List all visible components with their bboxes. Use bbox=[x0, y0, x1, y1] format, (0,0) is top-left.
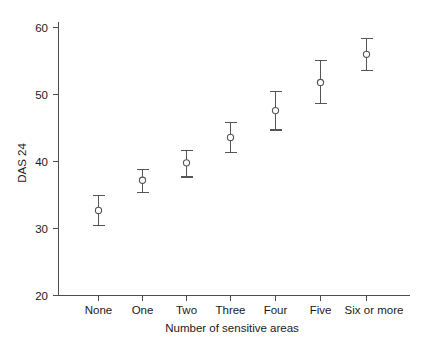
x-axis-title: Number of sensitive areas bbox=[165, 322, 299, 334]
data-point-six-or-more bbox=[361, 38, 373, 70]
y-tick-label-30: 30 bbox=[35, 223, 48, 235]
point-marker-one bbox=[139, 177, 145, 183]
x-tick-label-four: Four bbox=[264, 304, 288, 316]
x-tick-label-six-or-more: Six or more bbox=[345, 304, 404, 316]
point-marker-none bbox=[95, 207, 101, 213]
data-point-one bbox=[137, 170, 149, 193]
point-marker-six-or-more bbox=[363, 51, 369, 57]
point-marker-two bbox=[183, 160, 189, 166]
y-axis-tick-labels: 60 50 40 30 20 bbox=[35, 22, 48, 302]
x-axis-ticks bbox=[99, 296, 367, 302]
y-axis-title: DAS 24 bbox=[16, 143, 28, 183]
x-tick-label-one: One bbox=[132, 304, 154, 316]
data-point-none bbox=[93, 196, 105, 225]
data-point-three bbox=[225, 123, 237, 152]
y-tick-label-60: 60 bbox=[35, 22, 48, 34]
x-tick-label-five: Five bbox=[310, 304, 332, 316]
data-series-group bbox=[93, 38, 373, 225]
point-marker-four bbox=[272, 107, 278, 113]
y-tick-label-40: 40 bbox=[35, 156, 48, 168]
point-marker-five bbox=[317, 79, 323, 85]
data-point-five bbox=[315, 60, 327, 103]
point-marker-three bbox=[227, 134, 233, 140]
y-tick-label-50: 50 bbox=[35, 89, 48, 101]
x-tick-label-none: None bbox=[85, 304, 113, 316]
data-point-two bbox=[181, 151, 193, 177]
x-tick-label-three: Three bbox=[215, 304, 245, 316]
y-tick-label-20: 20 bbox=[35, 290, 48, 302]
y-axis-ticks bbox=[53, 28, 59, 296]
x-axis-tick-labels: None One Two Three Four Five Six or more bbox=[85, 304, 404, 316]
x-tick-label-two: Two bbox=[176, 304, 197, 316]
data-point-four bbox=[270, 91, 282, 130]
error-bar-plot: 60 50 40 30 20 None One Two Three Four F… bbox=[0, 0, 421, 343]
chart-container: 60 50 40 30 20 None One Two Three Four F… bbox=[0, 0, 421, 343]
